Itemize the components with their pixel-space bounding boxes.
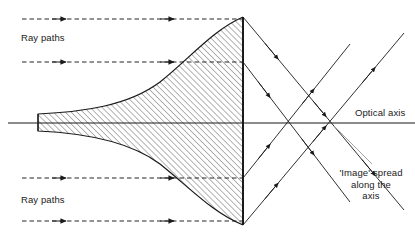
image-spread-line-2: along the <box>351 179 391 190</box>
refracted-ray-3 <box>243 44 350 178</box>
label-image-spread: 'Image' spread along the axis <box>329 167 413 202</box>
label-ray-paths-bottom: Ray paths <box>21 194 65 206</box>
label-ray-paths-top: Ray paths <box>21 32 65 44</box>
ray-arrow-icon <box>258 82 269 96</box>
image-spread-line-1: 'Image' spread <box>339 167 402 178</box>
ray-arrow-icon <box>302 139 313 153</box>
ray-arrow-icon <box>265 185 277 199</box>
ray-arrow-icon <box>313 101 325 115</box>
ray-arrow-icon <box>302 90 313 104</box>
image-spread-leader-line <box>334 126 372 164</box>
ray-arrow-icon <box>313 127 325 141</box>
ray-arrow-icon <box>265 43 277 57</box>
optics-figure: Ray paths Ray paths Optical axis 'Image'… <box>0 0 415 247</box>
ray-arrow-icon <box>258 146 269 160</box>
image-spread-line-3: axis <box>362 190 379 201</box>
label-optical-axis: Optical axis <box>355 107 405 119</box>
ray-arrow-icon <box>362 69 374 83</box>
lens-hatch-fill <box>38 17 243 225</box>
lens-body <box>38 17 243 225</box>
